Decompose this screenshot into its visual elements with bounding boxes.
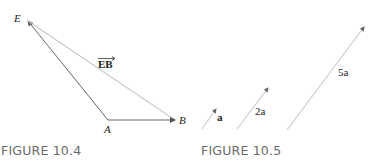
vector-5a [287, 27, 364, 130]
vector-label-eb-text: EB [98, 58, 113, 70]
vector-label-eb: EB [98, 57, 115, 71]
point-label-b: B [179, 114, 186, 126]
vector-label-a: a [217, 111, 223, 123]
figure-caption-10-4: FIGURE 10.4 [1, 143, 81, 158]
vector-label-5a: 5a [338, 66, 349, 78]
figure-caption-10-5: FIGURE 10.5 [201, 143, 281, 158]
point-label-e: E [13, 12, 21, 24]
vector-eb [28, 21, 175, 120]
point-label-a: A [103, 123, 111, 135]
vector-label-2a: 2a [255, 105, 266, 117]
figure-10-5: a 2a 5a FIGURE 10.5 [201, 27, 364, 158]
figure-10-4: E A B EB FIGURE 10.4 [1, 12, 186, 158]
diagram-canvas: E A B EB FIGURE 10.4 a 2a 5a FIGURE 10.5 [0, 0, 378, 166]
vector-ae [28, 21, 108, 120]
vector-a [202, 109, 216, 129]
